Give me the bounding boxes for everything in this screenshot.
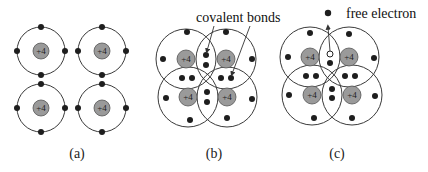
hole	[327, 51, 333, 57]
caption-a: (a)	[69, 146, 85, 162]
panel-c: +4 +4 +4 +4	[280, 6, 416, 162]
nucleus-charge: +4	[307, 90, 317, 100]
atom: +4	[179, 88, 197, 106]
caption-b: (b)	[206, 146, 223, 162]
atom: +4	[340, 48, 358, 66]
nucleus-charge: +4	[97, 46, 107, 56]
atom: +4	[217, 50, 235, 68]
free-electron	[325, 10, 331, 16]
arrow-icon	[328, 27, 330, 51]
nucleus-charge: +4	[181, 54, 191, 64]
atom: +4	[75, 81, 129, 135]
nucleus-charge: +4	[36, 103, 46, 113]
nucleus-charge: +4	[221, 54, 231, 64]
covalent-bond	[203, 52, 209, 68]
atom: +4	[14, 24, 68, 78]
nucleus-charge: +4	[97, 103, 107, 113]
broken-bond	[327, 51, 333, 66]
covalent-bond	[179, 75, 195, 81]
atom: +4	[303, 86, 321, 104]
nucleus-charge: +4	[347, 90, 357, 100]
covalent-bond	[329, 86, 335, 101]
free-electron-label: free electron	[346, 6, 416, 21]
covalent-bond	[342, 73, 358, 79]
atom: +4	[218, 88, 236, 106]
nucleus-charge: +4	[36, 46, 46, 56]
panel-a: +4 +4 +4 +4	[14, 24, 129, 162]
covalent-bond	[218, 75, 234, 81]
panel-b: +4 +4 +4 +4	[156, 10, 280, 162]
semiconductor-diagram: +4 +4 +4 +4	[0, 0, 428, 172]
nucleus-charge: +4	[222, 92, 232, 102]
atom: +4	[343, 86, 361, 104]
covalent-bond	[204, 89, 210, 105]
nucleus-charge: +4	[183, 92, 193, 102]
atom: +4	[177, 50, 195, 68]
atom: +4	[75, 24, 129, 78]
atom: +4	[301, 48, 319, 66]
covalent-bonds-label: covalent bonds	[196, 10, 280, 25]
nucleus-charge: +4	[305, 52, 315, 62]
nucleus-charge: +4	[344, 52, 354, 62]
covalent-bond	[303, 73, 319, 79]
caption-c: (c)	[329, 146, 345, 162]
atom: +4	[14, 81, 68, 135]
